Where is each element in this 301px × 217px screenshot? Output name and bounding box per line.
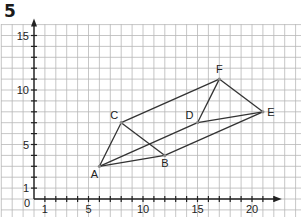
x-axis-arrow-icon — [274, 196, 282, 202]
point-e-marker — [261, 110, 264, 113]
point-b-label: B — [161, 157, 168, 169]
coordinate-diagram: 151015201510150 ABCDEF — [0, 0, 301, 217]
point-f-label: F — [216, 63, 223, 75]
y-axis-arrow-icon — [31, 19, 37, 27]
x-tick-label: 1 — [42, 203, 48, 215]
x-tick-label: 10 — [137, 203, 149, 215]
point-d-marker — [196, 121, 199, 124]
point-c-label: C — [110, 109, 118, 121]
x-tick-label: 20 — [246, 203, 258, 215]
point-d-label: D — [186, 109, 194, 121]
y-tick-label: 1 — [23, 182, 29, 194]
origin-label: 0 — [24, 197, 30, 209]
point-a-label: A — [91, 168, 99, 180]
y-tick-label: 10 — [17, 84, 29, 96]
point-c-marker — [120, 121, 123, 124]
y-tick-label: 5 — [23, 139, 29, 151]
point-f-marker — [218, 78, 221, 81]
grid — [1, 24, 301, 217]
y-tick-label: 15 — [17, 30, 29, 42]
x-tick-label: 5 — [85, 203, 91, 215]
point-a-marker — [98, 165, 101, 168]
point-e-label: E — [267, 106, 274, 118]
x-tick-label: 15 — [191, 203, 203, 215]
axes: 151015201510150 — [17, 19, 282, 215]
